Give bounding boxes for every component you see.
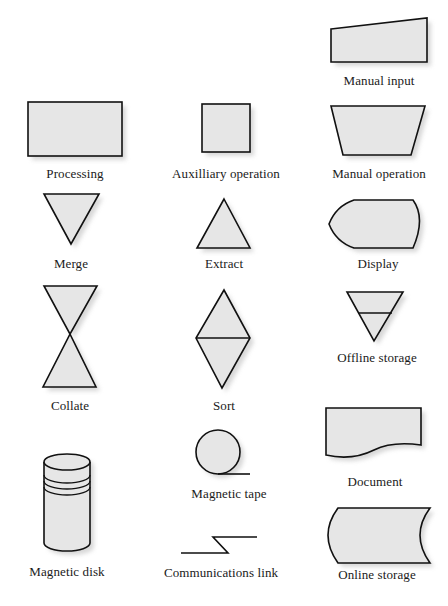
manual-operation-symbol (331, 106, 429, 159)
label-document: Document (348, 474, 403, 490)
flowchart-symbols-canvas (0, 0, 448, 606)
label-sort: Sort (213, 398, 235, 414)
processing-symbol (28, 102, 126, 160)
label-magnetic-tape: Magnetic tape (191, 486, 266, 502)
auxiliary-operation-symbol (202, 104, 254, 156)
extract-symbol (197, 199, 254, 252)
merge-symbol (44, 194, 103, 248)
label-communications-link: Communications link (164, 565, 278, 581)
communications-link-symbol (181, 537, 257, 553)
collate-symbol (43, 286, 101, 391)
label-manual-operation: Manual operation (332, 166, 426, 182)
document-symbol (326, 408, 425, 461)
label-magnetic-disk: Magnetic disk (29, 564, 104, 580)
label-collate: Collate (51, 398, 89, 414)
offline-storage-symbol (347, 292, 407, 345)
display-symbol (329, 200, 424, 252)
label-offline-storage: Offline storage (337, 350, 417, 366)
sort-symbol (196, 290, 254, 392)
label-merge: Merge (54, 256, 88, 272)
label-extract: Extract (205, 256, 243, 272)
online-storage-symbol (328, 508, 434, 567)
label-processing: Processing (46, 166, 103, 182)
label-online-storage: Online storage (338, 567, 416, 583)
label-display: Display (357, 256, 398, 272)
magnetic-disk-symbol (44, 454, 94, 555)
manual-input-symbol (331, 18, 431, 66)
magnetic-tape-symbol (196, 430, 250, 478)
label-auxiliary-operation: Auxilliary operation (172, 166, 280, 182)
label-manual-input: Manual input (344, 73, 415, 89)
